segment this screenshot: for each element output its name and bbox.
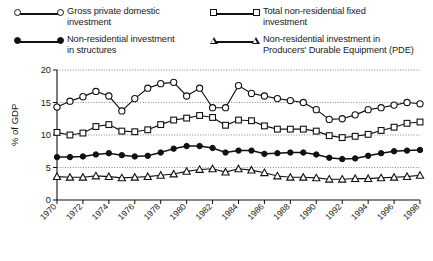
series-2 (54, 143, 422, 161)
data-point (340, 156, 345, 161)
data-point (314, 152, 319, 157)
data-point (235, 83, 241, 89)
data-point (67, 154, 72, 159)
data-point (67, 98, 73, 104)
legend-sample-square-open-icon (210, 8, 260, 19)
x-tick-label-1988: 1988 (271, 201, 292, 222)
x-tick-label-1978: 1978 (142, 201, 163, 222)
data-point (222, 105, 228, 111)
data-point (197, 143, 202, 148)
data-point (416, 172, 423, 178)
legend-sample-circle-filled-icon (14, 36, 64, 47)
data-point (417, 147, 422, 152)
data-point (352, 112, 358, 118)
data-point (313, 128, 319, 134)
data-point (184, 115, 190, 121)
data-point (287, 97, 293, 103)
x-tick-label-1976: 1976 (116, 201, 137, 222)
data-point (236, 117, 242, 123)
data-point (404, 120, 410, 126)
data-point (301, 150, 306, 155)
data-point (288, 150, 293, 155)
x-tick-label-1984: 1984 (219, 201, 240, 222)
data-point (339, 135, 345, 141)
data-point (145, 153, 150, 158)
data-point (249, 118, 255, 124)
data-point (93, 152, 98, 157)
data-point (300, 126, 306, 132)
chart-plot-area: % of GDP 0510152019701972197419761978198… (0, 60, 433, 261)
x-tick-label-1992: 1992 (323, 201, 344, 222)
data-point (248, 90, 254, 96)
data-point (236, 148, 241, 153)
data-point (106, 93, 112, 99)
data-point (417, 119, 423, 125)
x-tick-label-1986: 1986 (245, 201, 266, 222)
legend-item-nonresidential-investment-pde: Non-residential investment in Producers'… (210, 34, 414, 56)
legend-sample-circle-open-icon (14, 8, 64, 19)
data-point (54, 130, 60, 136)
data-point (300, 99, 306, 105)
data-point (171, 79, 177, 85)
data-point (132, 154, 137, 159)
data-point (223, 122, 229, 128)
data-point (313, 107, 319, 113)
data-point (391, 149, 396, 154)
data-point (417, 101, 423, 107)
data-point (197, 113, 203, 119)
y-tick-label-15: 15 (41, 98, 51, 108)
data-point (404, 99, 410, 105)
data-point (404, 148, 409, 153)
data-point (158, 81, 164, 87)
data-point (339, 116, 345, 122)
data-point (262, 123, 268, 129)
legend-label: Gross private domestic investment (67, 6, 160, 28)
data-point (378, 128, 384, 134)
data-point (275, 151, 280, 156)
data-point (197, 85, 203, 91)
data-point (261, 93, 267, 99)
data-point (210, 145, 215, 150)
line-chart: 0510152019701972197419761978198019821984… (0, 60, 433, 261)
y-tick-label-10: 10 (41, 130, 51, 140)
x-tick-label-1990: 1990 (297, 201, 318, 222)
y-tick-label-5: 5 (46, 163, 51, 173)
data-point (274, 126, 280, 132)
data-point (67, 132, 73, 138)
y-tick-label-20: 20 (41, 65, 51, 75)
data-point (391, 102, 397, 108)
data-point (365, 153, 370, 158)
data-point (80, 94, 86, 100)
x-tick-label-1974: 1974 (90, 201, 111, 222)
legend-label: Total non-residential fixed investment (263, 6, 366, 28)
data-point (119, 152, 124, 157)
y-axis-label: % of GDP (9, 104, 20, 146)
data-point (391, 124, 397, 130)
data-point (80, 130, 86, 136)
x-tick-label-1994: 1994 (349, 201, 370, 222)
series-3 (53, 165, 423, 182)
x-tick-label-1982: 1982 (193, 201, 214, 222)
data-point (145, 85, 151, 91)
data-point (171, 146, 176, 151)
data-point (54, 154, 59, 159)
data-point (352, 133, 358, 139)
data-point (184, 93, 190, 99)
data-point (365, 107, 371, 113)
data-point (93, 88, 99, 94)
data-point (262, 151, 267, 156)
series-0 (54, 79, 423, 122)
data-point (287, 126, 293, 132)
data-point (378, 151, 383, 156)
x-tick-label-1998: 1998 (401, 201, 422, 222)
data-point (132, 96, 138, 102)
legend-item-nonresidential-investment-structures: Non-residential investment in structures (14, 34, 174, 56)
data-point (106, 122, 112, 128)
data-point (158, 150, 163, 155)
data-point (223, 150, 228, 155)
data-point (158, 122, 164, 128)
data-point (54, 104, 60, 110)
x-tick-label-1972: 1972 (64, 201, 85, 222)
data-point (93, 124, 99, 130)
data-point (145, 127, 151, 133)
